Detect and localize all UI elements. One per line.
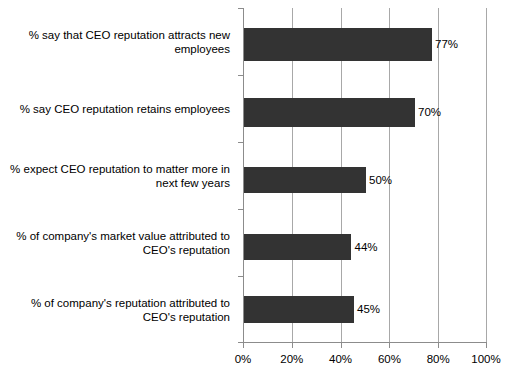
x-axis-tick [389, 343, 390, 348]
x-axis-tick [341, 343, 342, 348]
y-axis-tick [238, 209, 243, 210]
bar-value-label: 45% [357, 303, 380, 315]
x-axis-tick [438, 343, 439, 348]
bar-value-label: 50% [369, 174, 392, 186]
category-label-text: % say that CEO reputation attracts new e… [0, 28, 230, 56]
category-label: % say CEO reputation retains employees [0, 75, 236, 142]
x-axis-tick-label: 80% [427, 353, 450, 366]
bar [244, 296, 354, 323]
category-label-text: % say CEO reputation retains employees [20, 102, 230, 116]
bar [244, 28, 432, 61]
y-axis-tick [238, 142, 243, 143]
category-label: % of company's market value attributed t… [0, 209, 236, 276]
x-axis-tick-label: 0% [235, 353, 252, 366]
category-axis-labels: % say that CEO reputation attracts new e… [0, 8, 236, 343]
y-axis-tick [238, 276, 243, 277]
category-label: % of company's reputation attributed to … [0, 276, 236, 343]
bar-value-label: 77% [435, 38, 458, 50]
plot-area: 77% 70% 50% 44% 45% 0% 20% 40% 60% 80% 1… [243, 8, 487, 343]
category-label-text: % expect CEO reputation to matter more i… [0, 162, 230, 190]
x-axis-tick [292, 343, 293, 348]
x-axis-tick-label: 60% [378, 353, 401, 366]
bar [244, 167, 366, 193]
y-axis-tick [238, 8, 243, 9]
gridline-80 [438, 8, 439, 343]
category-label-text: % of company's reputation attributed to … [0, 296, 230, 324]
x-axis-tick-label: 100% [471, 353, 500, 366]
x-axis-tick [486, 343, 487, 348]
bar [244, 234, 351, 260]
bar [244, 98, 415, 127]
bar-value-label: 44% [355, 241, 378, 253]
x-axis-line [243, 342, 487, 343]
bar-value-label: 70% [418, 106, 441, 118]
category-label: % say that CEO reputation attracts new e… [0, 8, 236, 75]
x-axis-tick [243, 343, 244, 348]
category-label-text: % of company's market value attributed t… [0, 229, 230, 257]
category-label: % expect CEO reputation to matter more i… [0, 142, 236, 209]
y-axis-tick [238, 75, 243, 76]
x-axis-tick-label: 20% [280, 353, 303, 366]
bar-chart: % say that CEO reputation attracts new e… [0, 0, 511, 372]
x-axis-tick-label: 40% [329, 353, 352, 366]
gridline-100 [486, 8, 487, 343]
